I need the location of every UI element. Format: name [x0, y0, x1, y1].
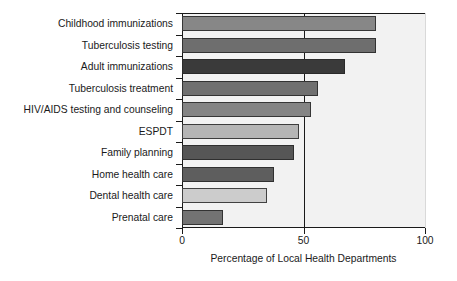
bar	[182, 16, 376, 31]
horizontal-bar-chart: Childhood immunizationsTuberculosis test…	[0, 0, 457, 281]
x-axis-tick-label: 50	[298, 235, 309, 246]
bar	[182, 210, 223, 225]
bar-row	[182, 207, 425, 229]
y-axis-category-label: Adult immunizations	[0, 56, 178, 78]
bar	[182, 81, 318, 96]
bar-row	[182, 142, 425, 164]
bar-row	[182, 78, 425, 100]
bar	[182, 188, 267, 203]
x-axis-tick	[425, 228, 426, 234]
y-axis-category-label: HIV/AIDS testing and counseling	[0, 99, 178, 121]
bar-row	[182, 164, 425, 186]
bar	[182, 59, 345, 74]
x-axis-tick-label: 0	[179, 235, 185, 246]
bar-row	[182, 13, 425, 35]
bar-row	[182, 56, 425, 78]
x-axis-tick-label: 100	[416, 235, 433, 246]
x-axis-tick	[304, 228, 305, 234]
y-axis-category-label: ESPDT	[0, 121, 178, 143]
bar-row	[182, 121, 425, 143]
y-axis-category-label: Tuberculosis treatment	[0, 78, 178, 100]
bar	[182, 145, 294, 160]
x-axis-tick	[182, 228, 183, 234]
bars-layer	[182, 13, 425, 228]
bar	[182, 102, 311, 117]
y-axis-category-label: Prenatal care	[0, 207, 178, 229]
y-axis-category-label: Childhood immunizations	[0, 13, 178, 35]
y-axis-category-label: Home health care	[0, 164, 178, 186]
y-axis-category-label: Tuberculosis testing	[0, 35, 178, 57]
y-axis-category-label: Dental health care	[0, 185, 178, 207]
bar-row	[182, 185, 425, 207]
bar-row	[182, 35, 425, 57]
x-axis-title: Percentage of Local Health Departments	[182, 253, 425, 264]
bar-row	[182, 99, 425, 121]
bar	[182, 167, 274, 182]
y-axis-category-labels: Childhood immunizationsTuberculosis test…	[0, 13, 178, 228]
y-axis-category-label: Family planning	[0, 142, 178, 164]
bar	[182, 38, 376, 53]
bar	[182, 124, 299, 139]
